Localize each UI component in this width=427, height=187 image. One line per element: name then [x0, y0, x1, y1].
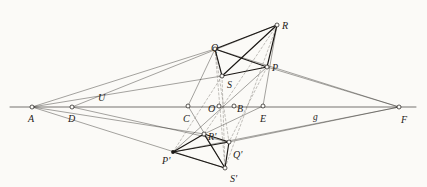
figure-canvas [0, 0, 427, 187]
geometry-figure: ADUCOBEFQRPSR'Q'P'S'g [0, 0, 427, 187]
ray-A-S [32, 76, 222, 107]
point-marker-A [30, 105, 34, 109]
point-label-R: R [282, 21, 288, 31]
point-label-R-prime: R' [208, 132, 216, 142]
ray-F-P [267, 67, 399, 107]
point-marker-O [217, 104, 221, 108]
point-marker-C [186, 104, 190, 108]
point-marker-P-prime [171, 150, 175, 154]
point-marker-D [70, 105, 74, 109]
edge-Q-R [215, 25, 277, 49]
point-label-Q-prime: Q' [233, 150, 243, 160]
dashed-S-Sp [222, 76, 225, 168]
point-label-O: O [208, 104, 215, 114]
edge-Sp-Qp [225, 142, 229, 168]
ray-A-Q [32, 49, 215, 107]
point-marker-S [220, 74, 224, 78]
point-marker-Q-prime [227, 140, 231, 144]
point-label-P-prime: P' [162, 156, 170, 166]
ray-F-Pp [173, 107, 399, 152]
point-marker-R [275, 23, 279, 27]
point-marker-P [265, 65, 269, 69]
dashed-line-layer [173, 25, 277, 168]
heavy-line-layer [173, 25, 277, 168]
ray-C-Q [188, 49, 215, 106]
point-marker-E [261, 104, 265, 108]
point-label-Q: Q [211, 43, 218, 53]
line-label-g: g [313, 113, 318, 123]
point-label-E: E [260, 114, 266, 124]
dashed-R-Sp [225, 25, 277, 168]
edge-R-P [267, 25, 277, 67]
point-label-D: D [68, 114, 75, 124]
point-label-S: S [227, 80, 232, 90]
point-marker-F [397, 105, 401, 109]
point-label-S-prime: S' [230, 174, 237, 184]
point-marker-R-prime [202, 132, 206, 136]
point-label-A: A [28, 114, 34, 124]
point-label-F: F [401, 115, 407, 125]
point-marker-S-prime [223, 166, 227, 170]
point-label-P: P [272, 63, 278, 73]
point-label-C: C [183, 114, 190, 124]
point-label-U: U [98, 93, 105, 103]
point-label-B: B [237, 104, 243, 114]
point-marker-B [232, 104, 236, 108]
ray-A-Rp [32, 107, 204, 134]
ray-F-Q [215, 49, 399, 107]
